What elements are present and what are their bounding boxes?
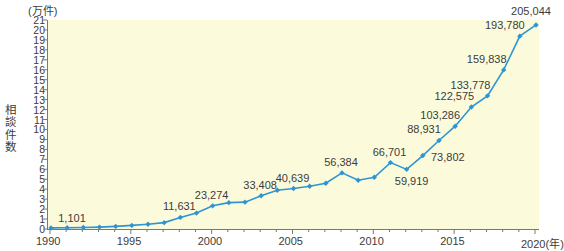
axis-ticks: [0, 0, 549, 249]
line-chart: (万件) 相談件数 012345678910111213141516171819…: [0, 0, 549, 249]
